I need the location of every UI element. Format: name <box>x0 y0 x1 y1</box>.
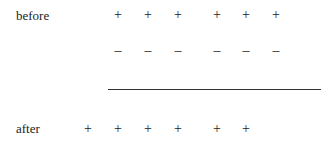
minus-symbol: – <box>239 156 253 164</box>
plus-symbol: + <box>210 121 224 137</box>
minus-symbol: – <box>171 156 185 164</box>
minus-symbol: – <box>210 156 224 164</box>
minus-symbol: – <box>111 43 125 59</box>
plus-symbol: + <box>239 121 253 137</box>
minus-symbol: – <box>210 43 224 59</box>
plus-symbol: + <box>269 7 283 23</box>
minus-symbol: – <box>171 43 185 59</box>
plus-symbol: + <box>141 121 155 137</box>
divider-line <box>108 89 321 90</box>
after-label: after <box>16 121 40 137</box>
plus-symbol: + <box>141 7 155 23</box>
minus-symbol: – <box>141 43 155 59</box>
plus-symbol: + <box>111 7 125 23</box>
minus-symbol: – <box>269 43 283 59</box>
before-label: before <box>16 8 49 24</box>
minus-symbol: – <box>299 156 313 164</box>
plus-symbol: + <box>171 121 185 137</box>
minus-symbol: – <box>269 156 283 164</box>
plus-symbol: + <box>210 7 224 23</box>
plus-symbol: + <box>111 121 125 137</box>
minus-symbol: – <box>141 156 155 164</box>
plus-symbol: + <box>239 7 253 23</box>
minus-symbol: – <box>239 43 253 59</box>
plus-symbol: + <box>171 7 185 23</box>
plus-symbol: + <box>81 121 95 137</box>
